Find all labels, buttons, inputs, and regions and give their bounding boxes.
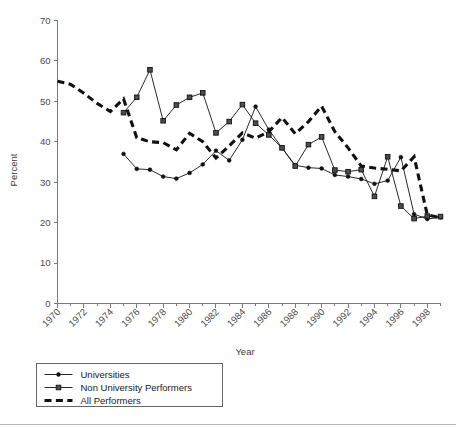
y-tick-label: 30 [40,177,51,188]
x-tick-label: 1982 [198,306,221,329]
x-axis-title: Year [235,346,254,357]
x-tick-label: 1998 [409,306,432,329]
data-point [386,179,390,183]
data-point [134,95,139,100]
y-tick-label: 10 [40,257,51,268]
series-non-university-performers [121,68,443,221]
data-point [412,216,417,221]
plot-area [58,68,443,221]
legend-item-1[interactable]: Non University Performers [45,382,193,393]
y-axis-title: Percent [8,153,19,186]
y-axis: 010203040506070 [40,15,58,309]
data-point [227,119,232,124]
data-point [253,121,258,126]
data-point [385,154,390,159]
data-point [174,177,178,181]
x-tick-label: 1976 [119,306,142,329]
data-point [254,105,258,109]
x-tick-label: 1984 [225,306,248,329]
data-point [188,171,192,175]
x-tick-label: 1970 [40,306,63,329]
y-tick-label: 50 [40,96,51,107]
legend-swatch-marker [57,373,61,377]
data-point [227,158,231,162]
data-point [359,167,364,172]
data-point [148,168,152,172]
legend-item-2[interactable]: All Performers [45,395,141,406]
y-tick-label: 20 [40,217,51,228]
data-point [320,167,324,171]
y-tick-label: 70 [40,15,51,26]
series-line-0 [124,107,441,219]
data-point [346,169,351,174]
x-axis: 1970197219741976197819801982198419861988… [40,304,441,329]
data-point [307,166,311,170]
data-point [399,204,404,209]
x-tick-label: 1992 [330,306,353,329]
data-point [333,173,337,177]
legend-label: Non University Performers [81,382,193,393]
legend-swatch-marker [56,385,61,390]
data-point [122,152,126,156]
data-point [346,175,350,179]
x-tick-label: 1990 [304,306,327,329]
data-point [240,138,244,142]
data-point [161,118,166,123]
data-point [319,135,324,140]
data-point [359,177,363,181]
x-tick-label: 1996 [383,306,406,329]
series-line-2 [58,81,441,218]
data-point [161,175,165,179]
data-point [438,214,443,219]
data-point [121,110,126,115]
legend-label: Universities [81,369,130,380]
x-tick-label: 1972 [66,306,89,329]
x-tick-label: 1974 [93,306,116,329]
data-point [399,155,403,159]
data-point [240,102,245,107]
data-point [214,131,219,136]
x-tick-label: 1988 [277,306,300,329]
data-point [174,103,179,108]
x-tick-label: 1994 [357,306,380,329]
data-point [293,164,298,169]
data-point [148,68,153,73]
data-point [135,167,139,171]
data-point [187,95,192,100]
chart-figure: 010203040506070 197019721974197619781980… [0,0,456,428]
y-tick-label: 40 [40,136,51,147]
data-point [372,194,377,199]
series-universities [122,105,443,221]
chart-legend: UniversitiesNon University PerformersAll… [37,364,223,407]
data-point [425,214,430,219]
data-point [333,168,338,173]
x-tick-label: 1986 [251,306,274,329]
y-tick-label: 0 [45,298,50,309]
x-tick-label: 1978 [145,306,168,329]
data-point [200,91,205,96]
data-point [373,182,377,186]
data-point [201,163,205,167]
series-line-1 [124,70,441,219]
data-point [214,149,218,153]
legend-item-0[interactable]: Universities [45,369,130,380]
data-point [280,146,285,151]
data-point [412,212,416,216]
legend-label: All Performers [81,395,141,406]
series-all-performers [58,81,441,218]
y-tick-label: 60 [40,55,51,66]
x-tick-label: 1980 [172,306,195,329]
data-point [306,142,311,147]
